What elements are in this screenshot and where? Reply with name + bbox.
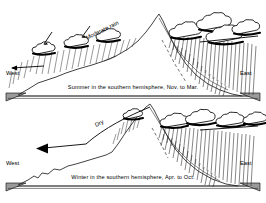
panel-summer: Moderate rain West East Summer in the so…	[6, 12, 260, 101]
winter-west-dry-zone	[113, 117, 140, 144]
winter-east-cloud-cluster	[160, 109, 266, 128]
summer-ground-line	[6, 93, 260, 101]
summer-east-cloud-cluster	[169, 12, 260, 44]
panel-winter: Dry West East Winter in the southern hem…	[6, 104, 266, 191]
diagram-canvas: Moderate rain West East Summer in the so…	[0, 0, 266, 203]
summer-caption: Summer in the southern hemisphere, Nov. …	[68, 84, 199, 90]
winter-ground-line	[6, 183, 260, 191]
winter-west-label: West	[6, 160, 19, 166]
winter-caption: Winter in the southern hemisphere, Apr. …	[71, 174, 195, 180]
summer-west-cloud-1	[32, 42, 55, 55]
winter-annotation-label: Dry	[94, 118, 105, 127]
winter-east-label: East	[240, 160, 252, 166]
summer-east-label: East	[240, 70, 252, 76]
diagram-figure: Moderate rain West East Summer in the so…	[0, 0, 266, 203]
summer-west-label: West	[6, 70, 19, 76]
